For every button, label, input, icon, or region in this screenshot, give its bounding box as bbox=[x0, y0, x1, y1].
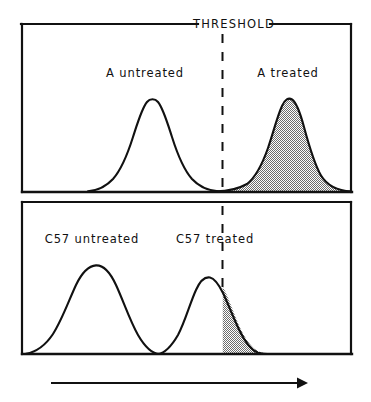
panel-a-group: A untreated A treated THRESHOLD bbox=[21, 17, 352, 193]
threshold-distribution-figure: A untreated A treated THRESHOLD bbox=[0, 0, 371, 402]
panel-c57-group: C57 untreated C57 treated bbox=[22, 202, 352, 354]
threshold-label: THRESHOLD bbox=[192, 17, 275, 31]
curve-c57-untreated bbox=[26, 265, 159, 354]
label-a-untreated: A untreated bbox=[106, 66, 184, 80]
label-c57-treated: C57 treated bbox=[176, 232, 254, 246]
curve-c57-treated bbox=[158, 277, 274, 354]
label-a-treated: A treated bbox=[257, 66, 319, 80]
curve-a-untreated bbox=[88, 99, 218, 191]
label-c57-untreated: C57 untreated bbox=[45, 232, 140, 246]
axis-arrow-head bbox=[297, 378, 308, 389]
figure-container: A untreated A treated THRESHOLD bbox=[0, 0, 371, 402]
axis-direction-arrow bbox=[51, 378, 308, 389]
c57-treated-shaded-tail bbox=[223, 286, 271, 354]
a-treated-shaded-area bbox=[222, 99, 351, 192]
